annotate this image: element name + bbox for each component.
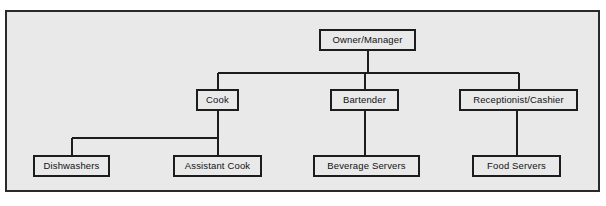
org-chart-root: Owner/Manager Cook Bartender Receptionis… (0, 0, 606, 206)
node-label-owner-manager: Owner/Manager (328, 35, 406, 45)
node-dishwashers[interactable]: Dishwashers (33, 155, 110, 177)
node-label-bartender: Bartender (339, 95, 390, 105)
node-bartender[interactable]: Bartender (330, 89, 399, 111)
node-cook[interactable]: Cook (196, 89, 239, 111)
node-label-cook: Cook (202, 95, 233, 105)
node-owner-manager[interactable]: Owner/Manager (319, 29, 416, 51)
node-label-assistant-cook: Assistant Cook (181, 161, 254, 171)
node-food-servers[interactable]: Food Servers (472, 155, 561, 177)
node-label-receptionist-cashier: Receptionist/Cashier (469, 95, 568, 105)
node-label-beverage-servers: Beverage Servers (323, 161, 409, 171)
node-assistant-cook[interactable]: Assistant Cook (173, 155, 262, 177)
node-receptionist-cashier[interactable]: Receptionist/Cashier (459, 89, 578, 111)
node-beverage-servers[interactable]: Beverage Servers (313, 155, 420, 177)
node-label-food-servers: Food Servers (483, 161, 550, 171)
node-label-dishwashers: Dishwashers (39, 161, 103, 171)
